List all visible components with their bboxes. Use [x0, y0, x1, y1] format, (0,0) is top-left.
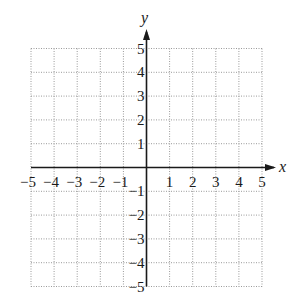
- x-tick-label: 3: [212, 174, 220, 190]
- x-tick-label: −2: [89, 174, 105, 190]
- x-axis-arrow-icon: [265, 164, 276, 171]
- y-tick-label: 3: [137, 88, 145, 104]
- y-axis-label: y: [139, 9, 149, 27]
- x-tick-label: 2: [189, 174, 197, 190]
- x-tick-label: 1: [166, 174, 174, 190]
- x-tick-label: −1: [112, 174, 128, 190]
- x-tick-label: −5: [20, 174, 36, 190]
- x-tick-label: −3: [66, 174, 82, 190]
- x-tick-label: −4: [43, 174, 59, 190]
- coordinate-plane: −5−4−3−2−11234554321−1−2−3−4−5 x y: [0, 0, 299, 298]
- y-tick-label: 4: [137, 64, 145, 80]
- y-tick-label: −4: [129, 255, 145, 271]
- x-tick-label: 5: [258, 174, 266, 190]
- y-tick-label: 5: [137, 41, 145, 57]
- y-axis-arrow-icon: [143, 29, 150, 40]
- y-tick-label: −5: [129, 279, 145, 295]
- y-tick-label: −2: [129, 207, 145, 223]
- x-axis-label: x: [278, 158, 286, 175]
- y-tick-label: 2: [137, 112, 145, 128]
- x-tick-label: 4: [235, 174, 243, 190]
- y-tick-label: −3: [129, 231, 145, 247]
- y-tick-label: 1: [137, 136, 145, 152]
- axes: [31, 29, 276, 287]
- y-tick-label: −1: [129, 183, 145, 199]
